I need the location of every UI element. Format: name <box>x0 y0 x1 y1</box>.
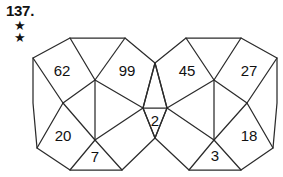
cell-45: 45 <box>179 62 196 79</box>
cell-3: 3 <box>211 147 219 164</box>
cell-7: 7 <box>91 148 99 165</box>
puzzle-figure: 137. ★ ★ <box>0 0 283 177</box>
cell-27: 27 <box>241 62 258 79</box>
cell-62: 62 <box>54 62 71 79</box>
cell-labels: 62 99 45 27 2 20 7 3 18 <box>54 62 258 165</box>
cell-20: 20 <box>55 127 72 144</box>
cell-99: 99 <box>119 62 136 79</box>
cell-2: 2 <box>151 112 159 129</box>
cell-18: 18 <box>241 127 258 144</box>
pentagon-tiling-diagram: 62 99 45 27 2 20 7 3 18 <box>0 0 283 177</box>
